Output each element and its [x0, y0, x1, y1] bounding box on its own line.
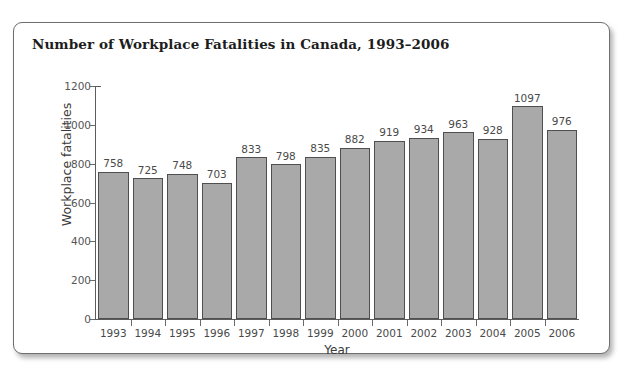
- bar-slot: 798: [269, 86, 304, 319]
- y-axis-tick-labels: 020040060080010001200: [55, 23, 91, 355]
- bar-value-label: 835: [303, 143, 338, 154]
- y-tick-mark: [89, 319, 95, 320]
- bar[interactable]: [374, 141, 405, 319]
- x-tick-mark: [338, 320, 339, 326]
- bar[interactable]: [512, 106, 543, 319]
- bar-slot: 882: [338, 86, 373, 319]
- bar-value-label: 833: [234, 144, 269, 155]
- x-tick-mark: [234, 320, 235, 326]
- bar-slot: 976: [545, 86, 580, 319]
- y-tick-label: 800: [55, 159, 91, 170]
- bar[interactable]: [305, 157, 336, 319]
- x-tick-mark: [200, 320, 201, 326]
- bar-value-label: 703: [200, 169, 235, 180]
- bar[interactable]: [443, 132, 474, 319]
- y-tick-label: 600: [55, 198, 91, 209]
- bar-slot: 919: [372, 86, 407, 319]
- bar-slot: 934: [407, 86, 442, 319]
- y-tick-label: 200: [55, 275, 91, 286]
- bar-slot: 725: [131, 86, 166, 319]
- x-tick-label: 2006: [539, 328, 585, 339]
- bar[interactable]: [202, 183, 233, 319]
- x-tick-mark: [165, 320, 166, 326]
- y-tick-label: 0: [55, 314, 91, 325]
- bar-value-label: 1097: [510, 93, 545, 104]
- bar-value-label: 882: [338, 134, 373, 145]
- bar-slot: 833: [234, 86, 269, 319]
- chart-card: Number of Workplace Fatalities in Canada…: [13, 22, 610, 354]
- y-tick-label: 400: [55, 236, 91, 247]
- x-tick-mark: [303, 320, 304, 326]
- bar[interactable]: [167, 174, 198, 319]
- x-tick-mark: [545, 320, 546, 326]
- x-tick-mark: [269, 320, 270, 326]
- bar-slot: 758: [96, 86, 131, 319]
- bar-value-label: 963: [441, 119, 476, 130]
- bar-slot: 963: [441, 86, 476, 319]
- y-tick-mark: [89, 203, 95, 204]
- bar-slot: 748: [165, 86, 200, 319]
- bar[interactable]: [478, 139, 509, 319]
- bar-value-label: 748: [165, 160, 200, 171]
- y-tick-mark: [89, 125, 95, 126]
- bar-slot: 1097: [510, 86, 545, 319]
- x-axis-title: Year: [95, 343, 579, 357]
- y-tick-mark: [89, 164, 95, 165]
- bar-value-label: 758: [96, 158, 131, 169]
- bar[interactable]: [340, 148, 371, 319]
- y-tick-mark: [89, 241, 95, 242]
- x-tick-mark: [441, 320, 442, 326]
- bar-slot: 928: [476, 86, 511, 319]
- bar[interactable]: [98, 172, 129, 319]
- x-tick-mark: [407, 320, 408, 326]
- y-tick-label: 1200: [55, 81, 91, 92]
- bar[interactable]: [547, 130, 578, 320]
- bar-value-label: 934: [407, 124, 442, 135]
- x-tick-mark: [476, 320, 477, 326]
- y-tick-mark: [89, 280, 95, 281]
- bar-slot: 703: [200, 86, 235, 319]
- y-tick-mark: [89, 86, 95, 87]
- bar-value-label: 928: [476, 125, 511, 136]
- bar[interactable]: [271, 164, 302, 319]
- bar[interactable]: [409, 138, 440, 319]
- x-tick-mark: [131, 320, 132, 326]
- bar-slot: 835: [303, 86, 338, 319]
- bar-value-label: 725: [131, 165, 166, 176]
- bar-value-label: 976: [545, 116, 580, 127]
- bar-value-label: 798: [269, 151, 304, 162]
- bar[interactable]: [133, 178, 164, 319]
- bars-container: 7587257487038337988358829199349639281097…: [96, 86, 579, 319]
- bar[interactable]: [236, 157, 267, 319]
- x-tick-mark: [510, 320, 511, 326]
- x-tick-mark: [372, 320, 373, 326]
- bar-value-label: 919: [372, 127, 407, 138]
- y-tick-label: 1000: [55, 120, 91, 131]
- plot-area: Workplace fatalities 0200400600800100012…: [14, 23, 611, 355]
